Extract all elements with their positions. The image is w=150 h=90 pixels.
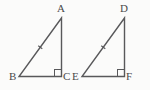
vertex-label-C: C bbox=[63, 71, 70, 82]
triangle-def bbox=[82, 18, 125, 77]
triangle-abc bbox=[19, 18, 62, 77]
geometry-figure: A B C D E F bbox=[0, 0, 150, 90]
triangle-def-right-angle-marker bbox=[118, 70, 125, 77]
vertex-label-A: A bbox=[57, 3, 65, 14]
triangle-abc-right-angle-marker bbox=[55, 70, 62, 77]
vertex-label-F: F bbox=[126, 71, 132, 82]
vertex-label-B: B bbox=[9, 71, 16, 82]
vertex-label-D: D bbox=[120, 3, 128, 14]
vertex-label-E: E bbox=[72, 71, 79, 82]
